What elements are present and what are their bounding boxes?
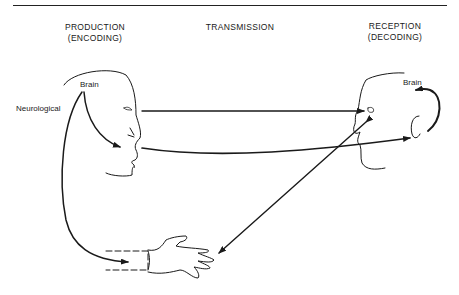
listener-head	[354, 73, 420, 169]
brain-to-hand-arrow	[62, 92, 128, 262]
mouth-to-ear-arrow	[142, 138, 410, 153]
eye-hand-bidirectional-arrow	[219, 122, 366, 253]
brain-to-mouth-arrow	[84, 92, 120, 147]
speaker-head	[64, 71, 141, 176]
ear-to-brain-arrow	[416, 89, 440, 131]
communication-diagram	[0, 0, 459, 295]
hand	[106, 236, 214, 278]
